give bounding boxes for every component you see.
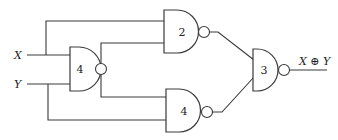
gate-label: 3 [261,64,268,77]
logic-circuit-diagram: X Y 4 2 4 3 X [0,0,338,140]
output-label: X ⊕ Y [298,55,332,68]
gate-label: 2 [179,26,186,39]
inverter-bubble [202,107,213,118]
inverter-bubble [279,65,290,76]
inverter-bubble [199,27,210,38]
wire-gate-input-output [101,43,166,97]
input-label-y: Y [14,78,23,91]
wire-x [27,21,164,55]
nand-gate-bottom: 4 [166,89,213,132]
wire-y [27,84,166,120]
nand-gate-output: 3 [253,49,290,91]
gate-label: 4 [181,105,188,118]
inverter-bubble [96,64,107,75]
gate-label: 4 [77,63,84,76]
nand-gate-top: 2 [164,10,210,53]
wire-to-output-gate [210,32,255,112]
input-label-x: X [13,49,23,62]
